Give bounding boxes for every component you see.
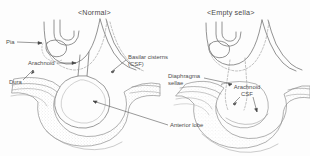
label-diaphragma-sellae: Diaphragma sellae bbox=[168, 73, 204, 86]
brain-base-contour-r bbox=[206, 20, 262, 65]
anterior-lobe-inner bbox=[61, 80, 105, 123]
flattened-pituitary bbox=[226, 114, 268, 124]
panel-title-empty-sella: <Empty sella> bbox=[207, 8, 255, 17]
arrowhead-pia bbox=[38, 42, 42, 45]
arrowhead-arachnoid-left bbox=[72, 62, 76, 65]
sphenoid-bone-stipple bbox=[12, 78, 160, 147]
anterior-lobe-outline bbox=[55, 76, 110, 128]
third-ventricle-inner-r bbox=[222, 22, 236, 41]
optic-chiasm bbox=[46, 40, 67, 57]
arrowhead-arachnoid-csf bbox=[233, 102, 236, 105]
panel-title-normal: <Normal> bbox=[78, 8, 111, 17]
label-basilar-cisterns: Basilar cisterns (CSF) bbox=[128, 54, 172, 67]
diagram-canvas bbox=[0, 0, 310, 156]
optic-chiasm-r bbox=[209, 41, 230, 58]
label-pia: Pia bbox=[6, 39, 15, 46]
brain-base-contour-r2 bbox=[262, 20, 296, 71]
infundibulum-right bbox=[87, 52, 89, 76]
third-ventricle-outline-r bbox=[216, 22, 241, 46]
label-dura: Dura bbox=[9, 79, 22, 86]
label-arachnoid-csf: Arachnoid CSF bbox=[232, 84, 262, 97]
leader-arachnoid-csf bbox=[233, 97, 240, 104]
brain-base-contour-r3 bbox=[268, 20, 302, 70]
label-anterior-lobe: Anterior lobe bbox=[170, 122, 203, 129]
label-arachnoid-left: Arachnoid bbox=[28, 60, 55, 67]
third-ventricle-inner bbox=[60, 20, 74, 40]
infundibulum-left bbox=[78, 55, 80, 76]
arrowhead-anterior-lobe bbox=[93, 101, 97, 104]
leader-basilar bbox=[111, 60, 126, 72]
anatomy-figure: <Normal> <Empty sella> Pia Arachnoid Dur… bbox=[0, 0, 310, 156]
arrowhead-dura bbox=[31, 70, 34, 74]
panel-normal-drawing bbox=[11, 19, 160, 150]
third-ventricle-outline bbox=[54, 20, 79, 45]
brain-base-contour bbox=[44, 19, 100, 64]
arrowhead-arachnoid-csf-2 bbox=[255, 108, 258, 112]
